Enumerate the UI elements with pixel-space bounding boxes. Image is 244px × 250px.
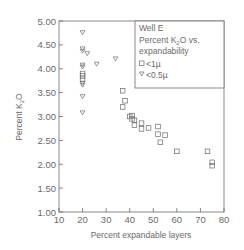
square-point xyxy=(210,160,215,165)
triangle-point xyxy=(80,95,85,99)
y-tick-label: 3.50 xyxy=(38,87,57,98)
x-axis-title: Percent expandable layers xyxy=(91,230,192,240)
x-axis: 1020304050607080 xyxy=(54,208,230,225)
square-point xyxy=(205,149,210,154)
x-tick-label: 60 xyxy=(172,214,183,225)
legend-title: Well E xyxy=(139,23,164,33)
legend-subtitle-2: expandability xyxy=(139,46,189,56)
x-tick-label: 20 xyxy=(77,214,88,225)
square-point xyxy=(139,127,144,132)
square-point xyxy=(80,77,85,82)
square-point xyxy=(120,88,125,93)
x-tick-label: 80 xyxy=(219,214,230,225)
triangle-point xyxy=(80,31,85,35)
square-point xyxy=(210,163,215,168)
y-tick-label: 2.50 xyxy=(38,135,57,146)
x-tick-label: 30 xyxy=(101,214,112,225)
y-tick-label: 3.00 xyxy=(38,111,57,122)
square-point xyxy=(123,98,128,103)
x-tick-label: 10 xyxy=(54,214,65,225)
y-tick-label: 5.00 xyxy=(38,16,57,27)
x-tick-label: 50 xyxy=(148,214,159,225)
y-axis-title: Percent K2O xyxy=(14,93,25,141)
triangle-point xyxy=(113,57,118,61)
scatter-chart: 1.001.502.002.503.003.504.004.505.00 102… xyxy=(0,0,244,250)
triangle-point xyxy=(85,52,90,56)
square-point xyxy=(158,140,163,145)
x-tick-label: 70 xyxy=(195,214,206,225)
square-point xyxy=(156,124,161,129)
triangle-point xyxy=(94,62,99,66)
y-tick-label: 1.50 xyxy=(38,183,57,194)
x-tick-label: 40 xyxy=(124,214,135,225)
square-point xyxy=(139,121,144,126)
y-tick-label: 4.50 xyxy=(38,39,57,50)
triangle-point xyxy=(80,111,85,115)
square-point xyxy=(175,149,180,154)
square-point xyxy=(120,105,125,110)
legend-item-fine-clay: <1µ xyxy=(146,59,161,69)
y-tick-label: 2.00 xyxy=(38,159,57,170)
y-tick-label: 4.00 xyxy=(38,63,57,74)
square-point xyxy=(163,133,168,138)
square-point xyxy=(156,132,161,137)
legend-subtitle: Percent K2O vs. xyxy=(139,35,200,46)
square-point xyxy=(132,123,137,128)
legend-item-very-fine-clay: <0.5µ xyxy=(146,70,168,80)
legend: Well E Percent K2O vs. expandability <1µ… xyxy=(135,21,224,88)
square-point xyxy=(146,126,151,131)
